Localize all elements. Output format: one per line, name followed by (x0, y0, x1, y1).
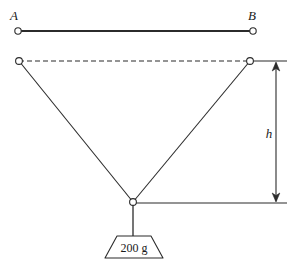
anchor-a-node (15, 28, 21, 34)
physics-diagram-figure: A B h 200 g (0, 0, 294, 270)
label-height-dimension: h (266, 126, 273, 141)
anchor-b-node (250, 28, 256, 34)
string-right-attachment-node (247, 58, 254, 65)
junction-node (130, 199, 137, 206)
diagram-canvas: A B h 200 g (0, 0, 294, 270)
string-right-line (133, 61, 250, 202)
string-left-attachment-node (16, 58, 23, 65)
label-mass-value: 200 g (121, 241, 148, 255)
label-anchor-b: B (248, 8, 256, 23)
string-left-line (19, 61, 133, 202)
label-anchor-a: A (9, 8, 18, 23)
